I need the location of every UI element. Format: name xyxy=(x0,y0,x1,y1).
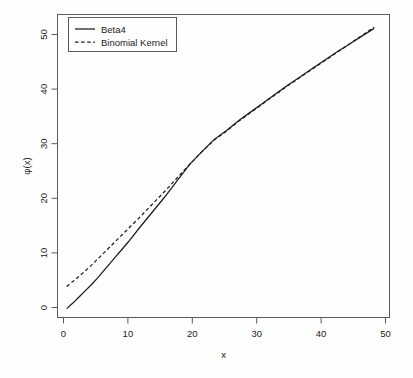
x-tick-label-0: 0 xyxy=(61,328,66,339)
chart-figure: 0 10 20 30 40 50 0 10 20 30 40 50 x φ(x) xyxy=(0,0,413,378)
x-tick-label-40: 40 xyxy=(316,328,327,339)
x-tick-label-50: 50 xyxy=(380,328,391,339)
y-tick-label-40: 40 xyxy=(38,84,49,95)
legend-label-binomial-kernel: Binomial Kernel xyxy=(101,37,168,48)
y-tick-label-20: 20 xyxy=(38,193,49,204)
legend-label-beta4: Beta4 xyxy=(101,24,126,35)
x-tick-label-10: 10 xyxy=(123,328,134,339)
y-tick-label-50: 50 xyxy=(38,29,49,40)
y-tick-label-0: 0 xyxy=(38,305,49,310)
plot-area: 0 10 20 30 40 50 0 10 20 30 40 50 x φ(x) xyxy=(0,0,413,378)
y-tick-label-30: 30 xyxy=(38,138,49,149)
y-tick-label-10: 10 xyxy=(38,248,49,259)
x-axis-title: x xyxy=(221,349,226,360)
y-axis-title: φ(x) xyxy=(21,157,32,174)
x-tick-label-20: 20 xyxy=(187,328,198,339)
x-tick-label-30: 30 xyxy=(251,328,262,339)
figure-background xyxy=(0,0,413,378)
